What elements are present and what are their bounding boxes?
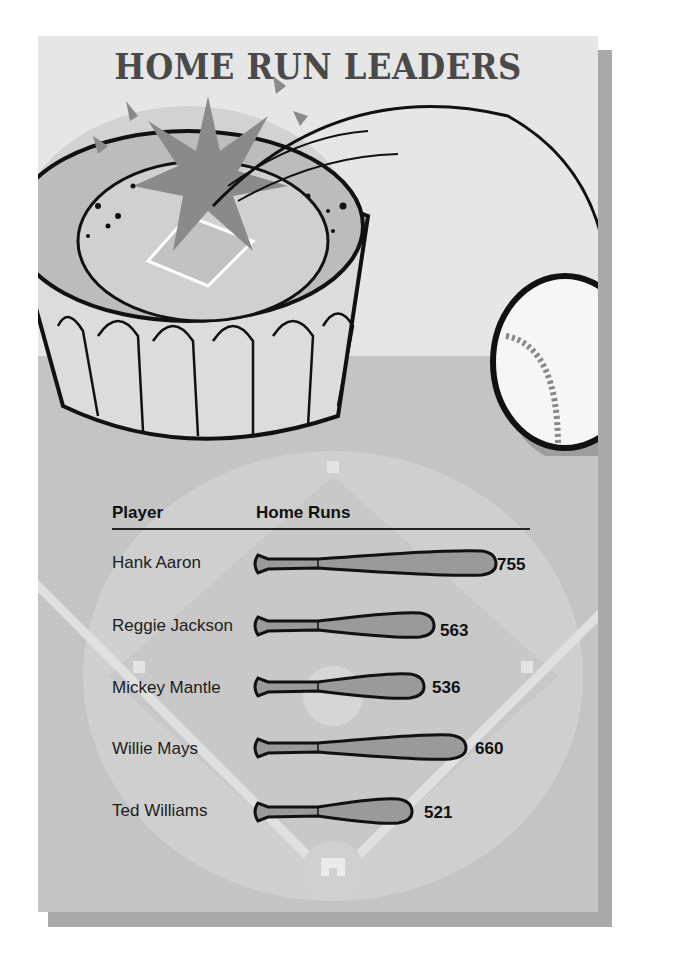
stadium-illustration [38,36,598,456]
home-run-value: 563 [440,621,468,641]
player-name: Willie Mays [112,739,198,759]
infographic-panel: HOME RUN LEADERS [38,36,598,912]
player-name: Ted Williams [112,801,207,821]
baseball-bat-icon [250,793,418,831]
player-name: Reggie Jackson [112,616,233,636]
baseball-bat-icon [250,607,440,645]
home-run-value: 755 [497,555,525,575]
column-header-home-runs: Home Runs [256,503,350,523]
baseball-bat-icon [250,668,430,706]
baseball-bat-icon [250,729,472,767]
baseball-bat-icon [250,545,500,583]
home-run-value: 521 [424,803,452,823]
player-name: Hank Aaron [112,553,201,573]
player-name: Mickey Mantle [112,678,221,698]
home-run-value: 660 [475,739,503,759]
home-run-value: 536 [432,678,460,698]
baseball-icon [493,276,598,448]
page-title: HOME RUN LEADERS [60,46,575,87]
column-header-player: Player [112,503,163,523]
header-divider [112,528,530,530]
